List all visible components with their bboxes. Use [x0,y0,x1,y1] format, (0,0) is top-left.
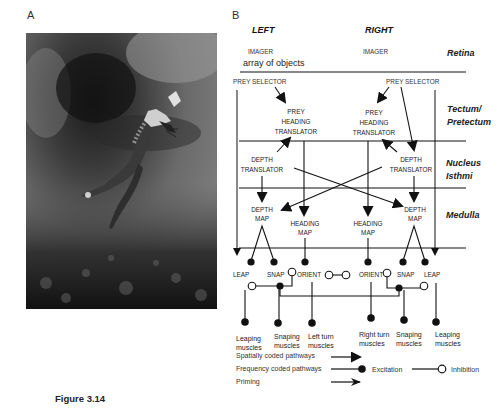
motor-snap-left: SNAP [267,271,284,278]
legend-inhibition-icon [438,365,446,373]
motor-orient-right: ORIENT [359,271,383,278]
depth-translator-right-1: DEPTH [400,156,422,163]
excite-snap-left [270,258,277,265]
muscle-label-5b: muscles [396,340,422,347]
heading-map-left-2: MAP [298,229,312,236]
muscle-label-2b: muscles [274,342,300,349]
muscle-label-4b: muscles [359,340,385,347]
muscle-right-turn-node [367,314,375,322]
neural-circuit-diagram: LEFT RIGHT IMAGER IMAGER array of object… [0,0,501,410]
excite-orient-right [364,258,371,265]
inhibit-snap-left [288,268,296,276]
motor-leap-right: LEAP [424,271,440,278]
excite-snap-right-junction [395,284,402,291]
muscle-label-3a: Left turn [308,333,334,340]
heading-map-right-2: MAP [361,229,375,236]
depth-map-left-2: MAP [255,215,269,222]
region-nucleus: Nucleus [446,158,481,168]
prey-heading-left-3: TRANSLATOR [275,128,318,135]
heading-map-right-1: HEADING [353,220,382,227]
legend-excitation-label: Excitation [372,366,402,373]
depth-translator-right-2: TRANSLATOR [390,166,433,173]
inhibit-snap-right [383,269,391,277]
depth-map-right-1: DEPTH [404,206,426,213]
array-of-objects-label: array of objects [243,58,305,68]
inhibit-leap-left [248,282,256,290]
muscle-label-6a: Leaping [435,331,460,339]
excite-snap-left-junction [276,282,283,289]
muscle-leaping-right-node [432,318,440,326]
muscle-label-4a: Right turn [359,331,389,339]
legend-frequency-label: Frequency coded pathways [236,365,322,373]
region-pretectum: Pretectum [447,117,491,127]
legend-priming-label: Priming [236,378,260,386]
motor-leap-left: LEAP [233,271,249,278]
depth-map-left-1: DEPTH [251,206,273,213]
arrow-depth-to-heading-left [277,138,290,152]
muscle-label-3b: muscles [308,342,334,349]
region-tectum: Tectum/ [447,104,483,114]
legend: Spatially coded pathways Frequency coded… [236,352,479,386]
arrow-depth-to-heading-right [383,140,397,152]
inhibit-orient-left [325,271,333,279]
left-imager: IMAGER [248,48,274,55]
left-title: LEFT [252,25,276,35]
muscle-label-1b: muscles [236,344,262,351]
depth-map-right-fork [403,226,425,261]
depth-map-right-2: MAP [408,215,422,222]
excite-leap-left [247,258,254,265]
muscle-snaping-right-node [400,316,408,324]
prey-heading-right-1: PREY [365,109,383,116]
legend-excitation-icon [358,365,366,373]
muscle-label-1a: Leaping [236,335,261,343]
region-isthmi: Isthmi [446,171,473,181]
right-imager: IMAGER [363,48,389,55]
muscle-label-2a: Snaping [274,333,300,341]
arrow-cross-left-to-right [294,168,402,206]
excite-leap-right [421,258,428,265]
prey-heading-right-2: HEADING [359,119,388,126]
prey-heading-left-1: PREY [287,108,305,115]
prey-heading-left-2: HEADING [281,118,310,125]
prey-heading-right-3: TRANSLATOR [353,129,396,136]
depth-translator-left-1: DEPTH [251,156,273,163]
arrow-selector-to-heading-left [275,87,285,102]
muscle-label-6b: muscles [435,340,461,347]
right-title: RIGHT [365,25,395,35]
excite-orient-left [301,258,308,265]
muscle-leaping-left-node [241,318,249,326]
prey-selector-left: PREY SELECTOR [233,78,287,85]
snap-cross-wire [280,286,399,296]
arrow-selector-to-heading-right [378,87,389,102]
inhibit-leap-right [420,282,428,290]
prey-selector-right: PREY SELECTOR [386,78,440,85]
excite-snap-right [399,258,406,265]
figure-caption: Figure 3.14 [55,393,105,404]
muscle-left-turn-node [308,319,316,327]
legend-spatial-label: Spatially coded pathways [236,352,315,360]
muscle-label-5a: Snaping [396,331,422,339]
motor-snap-right: SNAP [397,271,414,278]
inhibit-orient-right [342,271,350,279]
heading-map-left-1: HEADING [290,220,319,227]
motor-orient-left: ORIENT [297,271,321,278]
legend-inhibition-label: Inhibition [451,366,479,373]
muscle-snaping-left-node [274,319,282,327]
depth-map-left-fork [251,226,274,261]
depth-translator-left-2: TRANSLATOR [241,166,284,173]
region-medulla: Medulla [446,210,480,220]
region-retina: Retina [447,48,475,58]
